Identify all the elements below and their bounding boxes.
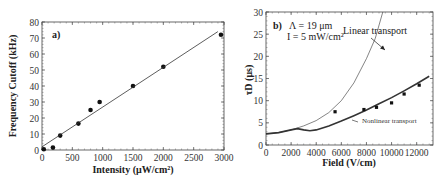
panel-a-ylabel: Frequency Cutoff (kHz) [7, 35, 19, 138]
series-line [42, 32, 218, 147]
y-tick-label: 80 [30, 18, 40, 28]
y-tick-label: 10 [254, 96, 264, 106]
y-tick-label: 30 [30, 98, 40, 108]
x-tick-label: 500 [65, 153, 80, 163]
linear-transport-label: Linear transport [343, 25, 407, 36]
data-point [42, 147, 47, 152]
panel-b-xlabel: Field (V/cm) [322, 157, 376, 169]
x-tick-label: 0 [264, 148, 269, 158]
x-tick-label: 2000 [282, 148, 301, 158]
panel-a-label: a) [52, 29, 60, 41]
data-point [51, 145, 56, 150]
x-tick-label: 12000 [405, 148, 429, 158]
data-point [333, 110, 336, 113]
data-point [403, 92, 406, 95]
x-tick-label: 2500 [184, 153, 203, 163]
panel-b-chart: 020004000600080001000012000051015202530 … [243, 8, 433, 170]
y-tick-label: 0 [258, 141, 263, 151]
panel-b-annotation-intensity: I = 5 mW/cm² [287, 31, 344, 42]
data-point [390, 101, 393, 104]
x-tick-label: 0 [40, 153, 45, 163]
y-tick-label: 30 [254, 8, 264, 18]
x-tick-label: 2000 [154, 153, 173, 163]
y-tick-label: 5 [258, 118, 263, 128]
y-tick-label: 25 [254, 30, 264, 40]
y-tick-label: 60 [30, 50, 40, 60]
panel-b-ylabel: τD (μs) [243, 65, 255, 96]
nonlinear-transport-label: Nonlinear transport [362, 117, 417, 125]
data-point [219, 33, 224, 38]
x-tick-label: 1500 [124, 153, 143, 163]
y-tick-label: 15 [254, 74, 264, 84]
data-point [418, 84, 421, 87]
data-point [362, 108, 365, 111]
y-tick-label: 40 [30, 82, 40, 92]
data-point [97, 100, 102, 105]
y-tick-label: 50 [30, 66, 40, 76]
panel-a-xlabel: Intensity (μW/cm²) [92, 164, 173, 176]
y-tick-label: 0 [34, 146, 39, 156]
y-tick-label: 20 [30, 114, 40, 124]
data-point [88, 108, 93, 113]
panel-b-label: b) [273, 20, 282, 32]
panel-b-annotation-lambda: Λ = 19 μm [289, 20, 332, 31]
y-tick-label: 70 [30, 34, 40, 44]
figure: 0500100015002000250030000102030405060708… [0, 0, 448, 178]
series-line [266, 76, 429, 134]
panel-a-data [42, 32, 224, 152]
x-tick-label: 3000 [215, 153, 234, 163]
y-tick-label: 20 [254, 52, 264, 62]
y-tick-label: 10 [30, 130, 40, 140]
data-point [375, 106, 378, 109]
panel-a-chart: 0500100015002000250030000102030405060708… [7, 18, 234, 177]
nonlinear-transport-arrow [352, 120, 358, 122]
x-tick-label: 10000 [380, 148, 404, 158]
x-tick-label: 1000 [93, 153, 112, 163]
